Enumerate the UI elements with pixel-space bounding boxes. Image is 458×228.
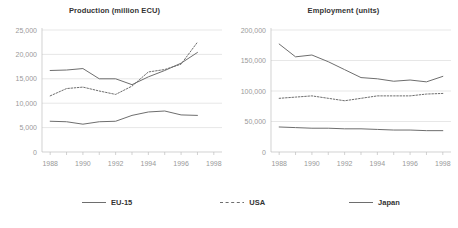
x-axis-tick-label: 1998 [206,160,222,167]
x-axis-tick-label: 1992 [108,160,124,167]
y-axis-tick-label: 200,000 [241,27,266,34]
legend-label-japan: Japan [378,198,400,207]
legend-label-usa: USA [249,198,265,207]
y-axis-tick-label: 5,000 [19,124,37,131]
x-axis-tick-label: 1996 [402,160,418,167]
plot-area-production: 05,00010,00015,00020,00025,0001988199019… [0,24,229,184]
legend-item-usa: USA [220,198,265,207]
x-axis-tick-label: 1990 [75,160,91,167]
x-axis-tick-label: 1996 [173,160,189,167]
chart-panels: Production (million ECU) 05,00010,00015,… [0,0,458,190]
y-axis-tick-label: 25,000 [16,27,38,34]
x-axis-tick-label: 1988 [42,160,58,167]
x-axis-tick-label: 1988 [271,160,287,167]
line-chart-employment: 050,000100,000150,000200,000198819901992… [229,24,458,184]
chart-title-production: Production (million ECU) [0,6,229,15]
line-chart-production: 05,00010,00015,00020,00025,0001988199019… [0,24,229,184]
y-axis-tick-label: 20,000 [16,51,38,58]
chart-title-employment: Employment (units) [229,6,458,15]
legend-item-eu-15: EU-15 [82,198,132,207]
x-axis-tick-label: 1998 [435,160,451,167]
legend-item-japan: Japan [349,198,400,207]
legend-line-solid-icon [82,199,106,206]
series-line-eu-15 [50,52,197,84]
y-axis-tick-label: 15,000 [16,75,38,82]
legend-line-solid-icon [349,199,373,206]
chart-panel-production: Production (million ECU) 05,00010,00015,… [0,0,229,190]
chart-panel-employment: Employment (units) 050,000100,000150,000… [229,0,458,190]
series-line-japan [50,111,197,124]
y-axis-tick-label: 10,000 [16,100,38,107]
x-axis-tick-label: 1992 [337,160,353,167]
legend-label-eu-15: EU-15 [111,198,132,207]
plot-area-employment: 050,000100,000150,000200,000198819901992… [229,24,458,184]
y-axis-tick-label: 100,000 [241,88,266,95]
series-line-japan [279,127,443,131]
chart-legend: EU-15 USA Japan [0,192,458,228]
y-axis-tick-label: 50,000 [245,118,267,125]
legend-line-dotted-icon [220,199,244,206]
x-axis-tick-label: 1994 [370,160,386,167]
y-axis-tick-label: 0 [33,149,37,156]
x-axis-tick-label: 1994 [141,160,157,167]
series-line-eu-15 [279,44,443,82]
legend-row: EU-15 USA Japan [0,198,458,207]
y-axis-tick-label: 150,000 [241,57,266,64]
figure: Production (million ECU) 05,00010,00015,… [0,0,458,228]
y-axis-tick-label: 0 [262,149,266,156]
x-axis-tick-label: 1990 [304,160,320,167]
series-line-usa [279,93,443,100]
